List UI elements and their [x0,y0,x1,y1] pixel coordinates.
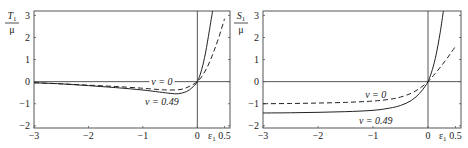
label-nu-0: ν = 0 [365,89,386,100]
label-nu-0-49: ν = 0.49 [145,96,179,107]
plot-t1-over-mu: 3210−1−2−3−2−100.5ε1T1μν = 0ν = 0.49 [5,10,231,143]
y-axis-label-denominator: μ [9,24,14,35]
y-tick-label: 1 [254,54,259,65]
series-nu-0-49 [263,11,443,113]
label-nu-0: ν = 0 [151,76,172,87]
x-tick-label: −1 [138,130,149,141]
series-nu-0 [34,19,225,90]
y-axis-label-denominator: μ [238,24,243,35]
figure: 3210−1−2−3−2−100.5ε1T1μν = 0ν = 0.49 321… [0,0,468,148]
x-tick-label: 0 [426,130,431,141]
y-axis-label-numerator: T1 [7,10,17,23]
x-tick-label: −3 [29,130,40,141]
x-axis-label: ε1 [439,130,447,143]
plot-frame [34,11,230,128]
y-tick-label: 1 [25,54,30,65]
label-nu-0-49: ν = 0.49 [359,115,393,126]
y-tick-label: −1 [19,98,30,109]
y-tick-label: 3 [25,10,30,21]
x-tick-label: 0 [195,130,200,141]
y-tick-label: 2 [25,32,30,43]
x-tick-label: 0.5 [449,130,462,141]
x-tick-label: −3 [258,130,269,141]
x-axis-label: ε1 [208,130,216,143]
y-tick-label: 3 [254,10,259,21]
y-tick-label: 0 [254,76,259,87]
x-tick-label: 0.5 [218,130,231,141]
y-tick-label: 0 [25,76,30,87]
x-tick-label: −2 [313,130,324,141]
y-axis-label-numerator: S1 [237,10,246,23]
plot-frame [263,11,461,128]
y-tick-label: −1 [248,98,259,109]
x-tick-label: −1 [368,130,379,141]
series-nu-0 [263,46,456,103]
plot-s1-over-mu: 3210−1−2−3−2−100.5ε1S1μν = 0ν = 0.49 [234,10,462,143]
x-tick-label: −2 [83,130,94,141]
y-tick-label: 2 [254,32,259,43]
